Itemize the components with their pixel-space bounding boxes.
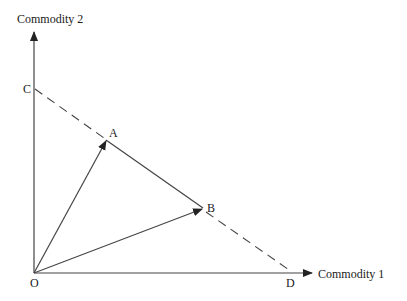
budget-line-ca [35,89,104,138]
origin-label: O [30,276,39,290]
y-axis-label: Commodity 2 [17,12,83,26]
budget-diagram: Commodity 2 Commodity 1 C A B D O [0,0,407,301]
x-axis-label: Commodity 1 [318,267,384,281]
point-b-label: B [207,201,215,215]
point-a-label: A [109,126,118,140]
point-d-label: D [286,276,295,290]
budget-line-bd [206,212,292,272]
segment-ab [106,140,203,208]
vector-ob [34,209,202,273]
vector-oa [34,141,106,273]
point-c-label: C [23,82,31,96]
